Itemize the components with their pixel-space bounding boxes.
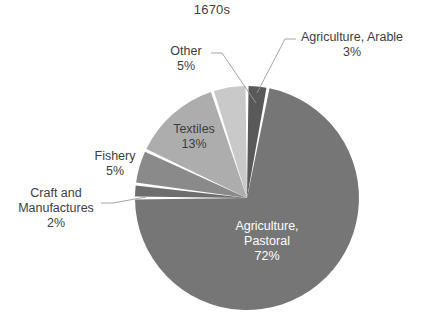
slice-label-textiles: Textiles 13% xyxy=(160,122,228,152)
slice-label-other-percent: 5% xyxy=(156,59,216,74)
slice-label-agriculture-pastoral: Agriculture, Pastoral 72% xyxy=(212,219,322,264)
slice-label-textiles-percent: 13% xyxy=(160,137,228,152)
slice-label-other: Other 5% xyxy=(156,44,216,74)
slice-label-agriculture-arable-name: Agriculture, Arable xyxy=(289,30,415,45)
slice-label-fishery-name: Fishery xyxy=(84,149,146,164)
slice-label-craft-and-manufactures: Craft and Manufactures 2% xyxy=(4,186,108,231)
pie-slices xyxy=(135,86,359,310)
slice-label-pastoral-name-line1: Agriculture, xyxy=(212,219,322,234)
slice-label-agriculture-arable-percent: 3% xyxy=(289,45,415,60)
slice-label-craft-name-line2: Manufactures xyxy=(4,201,108,216)
slice-label-agriculture-arable: Agriculture, Arable 3% xyxy=(289,30,415,60)
slice-label-pastoral-name-line2: Pastoral xyxy=(212,234,322,249)
slice-label-other-name: Other xyxy=(156,44,216,59)
slice-label-craft-name-line1: Craft and xyxy=(4,186,108,201)
slice-label-craft-percent: 2% xyxy=(4,216,108,231)
slice-label-textiles-name: Textiles xyxy=(160,122,228,137)
slice-label-pastoral-percent: 72% xyxy=(212,249,322,264)
pie-chart: 1670s Other 5% Agriculture, Arable 3% Te… xyxy=(0,0,424,332)
slice-label-fishery: Fishery 5% xyxy=(84,149,146,179)
slice-label-fishery-percent: 5% xyxy=(84,164,146,179)
